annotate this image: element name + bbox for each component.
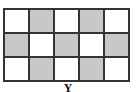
unshaded-cell	[54, 9, 79, 33]
unshaded-cell	[29, 33, 54, 57]
shaded-cell	[29, 57, 54, 81]
shaded-cell	[4, 33, 29, 57]
unshaded-cell	[4, 57, 29, 81]
shaded-cell	[79, 57, 104, 81]
unshaded-cell	[104, 57, 129, 81]
shaded-cell	[29, 9, 54, 33]
unshaded-cell	[54, 57, 79, 81]
unshaded-cell	[104, 9, 129, 33]
shaded-cell	[54, 33, 79, 57]
shaded-cell	[104, 33, 129, 57]
shaded-cell	[79, 9, 104, 33]
unshaded-cell	[79, 33, 104, 57]
checkerboard-grid	[3, 8, 130, 82]
figure-label: Y	[0, 82, 136, 92]
unshaded-cell	[4, 9, 29, 33]
